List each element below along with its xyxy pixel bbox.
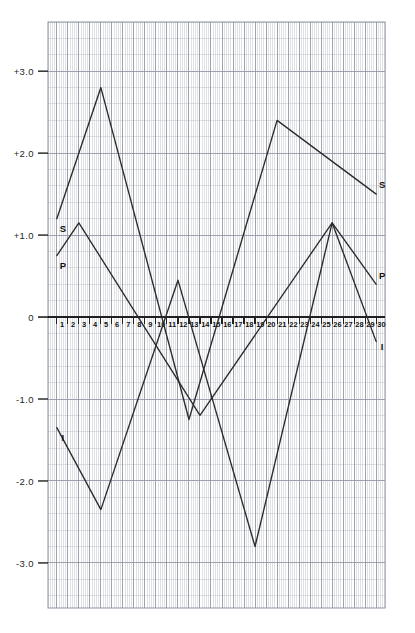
x-tick-label: 16 — [223, 320, 231, 329]
y-tick-label: -1.0 — [16, 394, 34, 405]
y-tick-label: +2.0 — [14, 148, 34, 159]
x-tick-label: 26 — [333, 320, 341, 329]
x-tick-label: 24 — [311, 320, 320, 329]
x-tick-label: 21 — [278, 320, 286, 329]
x-tick-label: 2 — [71, 320, 75, 329]
y-tick-label: -3.0 — [16, 558, 34, 569]
x-tick-label: 20 — [267, 320, 275, 329]
curve-label-i-right: I — [381, 341, 384, 352]
x-tick-label: 3 — [82, 320, 86, 329]
y-tick-label: +3.0 — [14, 66, 34, 77]
curve-label-p-left: P — [60, 260, 67, 271]
x-tick-label: 30 — [377, 320, 385, 329]
y-tick-label: -2.0 — [16, 476, 34, 487]
curve-label-s-left: S — [60, 223, 66, 234]
x-tick-label: 11 — [168, 320, 176, 329]
x-tick-label: 27 — [344, 320, 352, 329]
curve-label-i-left: I — [61, 432, 64, 443]
x-tick-label: 7 — [126, 320, 130, 329]
y-tick-label: 0 — [28, 312, 34, 323]
y-tick-label: +1.0 — [14, 230, 34, 241]
x-tick-label: 14 — [201, 320, 210, 329]
x-tick-label: 12 — [179, 320, 187, 329]
biorhythm-chart-figure: +3.0+2.0+1.00-1.0-2.0-3.0 12345678910111… — [0, 0, 415, 633]
x-tick-label: 17 — [234, 320, 242, 329]
x-tick-label: 25 — [322, 320, 330, 329]
x-tick-label: 22 — [289, 320, 297, 329]
x-tick-label: 5 — [104, 320, 108, 329]
x-tick-label: 1 — [60, 320, 64, 329]
x-tick-label: 6 — [115, 320, 119, 329]
x-tick-label: 9 — [148, 320, 152, 329]
curve-label-p-right: P — [379, 270, 386, 281]
x-tick-label: 18 — [245, 320, 253, 329]
x-tick-label: 28 — [355, 320, 363, 329]
curve-label-s-right: S — [379, 179, 385, 190]
